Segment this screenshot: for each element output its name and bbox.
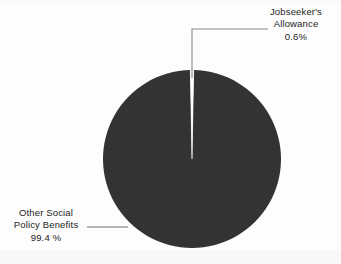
pie-label-jobseekers-value: 0.6% <box>252 31 340 43</box>
pie-label-other-social-line2: Policy Benefits <box>2 219 90 231</box>
pie-label-jobseekers-allowance: Jobseeker's Allowance 0.6% <box>252 6 340 43</box>
pie-label-other-social-line1: Other Social <box>2 207 90 219</box>
pie-label-other-social-value: 99.4 % <box>2 232 90 244</box>
pie-label-jobseekers-line2: Allowance <box>252 18 340 30</box>
pie-chart-figure: Jobseeker's Allowance 0.6% Other Social … <box>0 0 341 264</box>
scan-noise-bottom <box>0 250 341 264</box>
pie-label-jobseekers-line1: Jobseeker's <box>252 6 340 18</box>
pie-label-other-social-policy-benefits: Other Social Policy Benefits 99.4 % <box>2 207 90 244</box>
